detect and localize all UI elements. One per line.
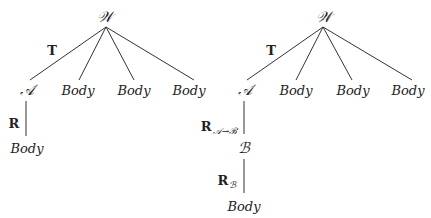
edge-w-body1-right [296,27,323,80]
node-body-right-1: Body [279,84,312,97]
edge-w-body3-right [323,27,412,80]
edge-label-r-b-main: R [218,173,229,188]
node-world-right: 𝒲 [316,10,332,25]
node-b-right: ℬ [238,141,250,156]
edge-w-a-right [247,27,323,80]
edge-label-r-a-to-b-main: R [201,119,212,134]
node-body-right-2: Body [336,84,369,97]
node-a-right: 𝒜 [238,83,252,98]
node-body-left-1: Body [61,84,94,97]
node-body-right-chain: Body [227,200,260,213]
node-body-left-chain: Body [10,142,43,155]
edge-label-r-left: R [9,117,20,130]
edge-label-r-a-to-b-subscript: 𝒜→ℬ [213,126,238,136]
node-body-left-3: Body [172,84,205,97]
edge-w-a-left [30,27,106,80]
edge-w-body3-left [106,27,194,80]
edge-w-body1-left [79,27,106,80]
node-body-right-3: Body [391,84,424,97]
tree-edges [0,0,431,218]
edge-label-t-right: T [266,44,276,57]
node-world-left: 𝒲 [97,10,113,25]
edge-label-t-left: T [47,44,57,57]
edge-label-r-b-subscript: ℬ [229,180,236,190]
node-a-left: 𝒜 [20,83,34,98]
node-body-left-2: Body [117,84,150,97]
edge-label-r-b: Rℬ [218,174,237,187]
edge-w-body2-right [323,27,352,80]
edge-label-r-a-to-b: R𝒜→ℬ [201,120,237,133]
